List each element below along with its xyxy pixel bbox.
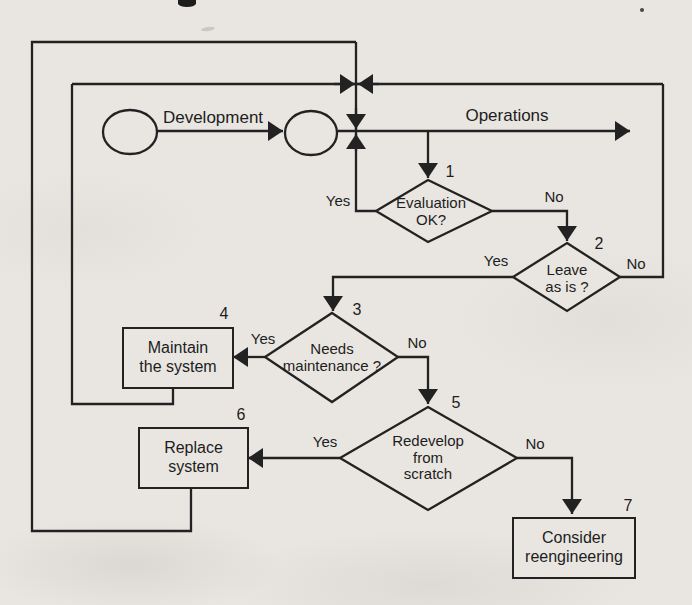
decision-1-no-label: No	[544, 189, 563, 206]
process-4-maintain-box: Maintain the system	[122, 327, 234, 389]
process-7-reengineering-box: Consider reengineering	[512, 517, 636, 579]
operations-label: Operations	[465, 107, 548, 126]
edge-evaluation-no	[492, 211, 567, 241]
development-state-ellipse	[103, 110, 157, 154]
process-7-number: 7	[624, 497, 633, 515]
edge-leave-no-riser	[620, 84, 663, 277]
decision-5-number: 5	[452, 394, 461, 412]
decision-3-no-label: No	[407, 335, 426, 352]
decision-2-text: Leave as is ?	[545, 262, 588, 295]
decision-3-text: Needs maintenance ?	[283, 341, 381, 374]
decision-1-number: 1	[446, 163, 455, 181]
decision-5-yes-label: Yes	[313, 434, 337, 451]
decision-5-no-label: No	[525, 436, 544, 453]
process-4-number: 4	[220, 305, 229, 323]
process-6-replace-box: Replace system	[138, 427, 249, 489]
decision-2-yes-label: Yes	[484, 253, 508, 270]
scanned-flowchart-page: Maintain the system Replace system Consi…	[0, 0, 692, 605]
edge-redevelop-no	[517, 458, 572, 514]
edge-main-vertical	[356, 42, 376, 211]
scan-dot-artifact	[640, 8, 644, 12]
operations-state-ellipse	[285, 111, 337, 155]
decision-3-yes-label: Yes	[251, 331, 275, 348]
process-6-number: 6	[237, 406, 246, 424]
decision-2-number: 2	[595, 235, 604, 253]
edge-maintenance-no	[398, 357, 428, 404]
scan-ink-artifact	[178, 0, 196, 7]
decision-2-no-label: No	[626, 256, 645, 273]
development-label: Development	[163, 109, 263, 128]
flowchart-canvas	[0, 0, 692, 605]
decision-1-text: Evaluation OK?	[396, 195, 466, 228]
decision-3-number: 3	[353, 301, 362, 319]
decision-5-text: Redevelop from scratch	[392, 433, 464, 483]
decision-1-yes-label: Yes	[326, 193, 350, 210]
